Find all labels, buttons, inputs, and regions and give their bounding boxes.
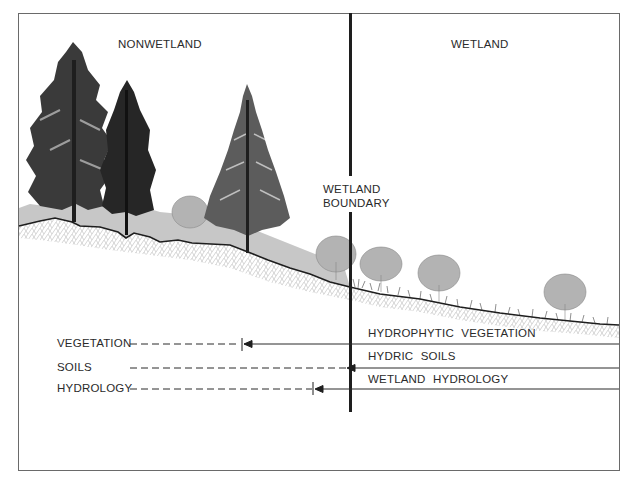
hydrophytic-vegetation-label: HYDROPHYTIC VEGETATION <box>368 327 536 339</box>
hydrology-label: HYDROLOGY <box>57 382 132 394</box>
wetland-label: WETLAND <box>451 38 509 50</box>
nonwetland-label: NONWETLAND <box>118 38 202 50</box>
vegetation-label: VEGETATION <box>57 337 131 349</box>
hydric-soils-label: HYDRIC SOILS <box>368 350 456 362</box>
wetland-hydrology-label: WETLAND HYDROLOGY <box>368 373 508 385</box>
shrub-icon <box>172 196 208 228</box>
wetland-boundary-diagram <box>0 0 633 483</box>
boundary-label-line2: BOUNDARY <box>323 197 390 209</box>
boundary-label-line1: WETLAND <box>323 183 381 195</box>
soils-label: SOILS <box>57 361 92 373</box>
